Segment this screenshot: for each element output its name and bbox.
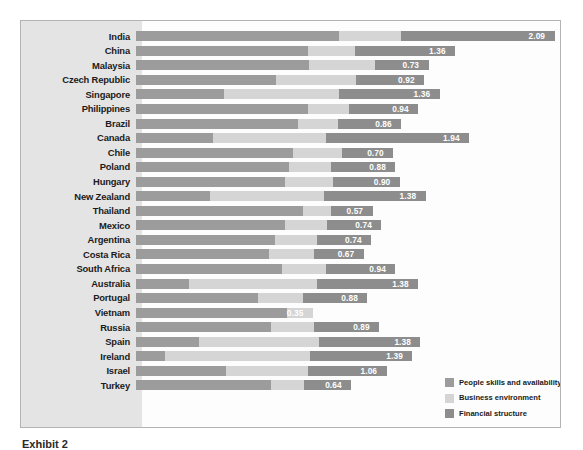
category-label: Russia bbox=[21, 323, 136, 332]
bar-track: 0.92 bbox=[136, 75, 560, 85]
category-label: Malaysia bbox=[21, 61, 136, 70]
bar-value-label: 0.94 bbox=[392, 104, 409, 114]
chart-row: Canada1.94 bbox=[21, 131, 560, 146]
bar-segment-s1 bbox=[136, 351, 165, 361]
bar-track: 1.38 bbox=[136, 279, 560, 289]
chart-row: India2.09 bbox=[21, 29, 560, 44]
bar-value-label: 2.09 bbox=[529, 31, 546, 41]
bar-segment-s2 bbox=[298, 119, 338, 129]
stacked-bar bbox=[136, 162, 395, 172]
stacked-bar bbox=[136, 351, 412, 361]
chart-row: New Zealand1.38 bbox=[21, 189, 560, 204]
legend-item: Financial structure bbox=[445, 409, 561, 418]
bar-segment-s2 bbox=[303, 206, 330, 216]
bar-segment-s1 bbox=[136, 308, 287, 318]
bar-value-label: 0.64 bbox=[325, 380, 342, 390]
bar-segment-s2 bbox=[309, 60, 375, 70]
bar-segment-s2 bbox=[165, 351, 309, 361]
stacked-bar bbox=[136, 119, 401, 129]
bar-segment-s2 bbox=[224, 89, 340, 99]
bar-track: 1.38 bbox=[136, 191, 560, 201]
bar-track: 1.36 bbox=[136, 46, 560, 56]
category-label: Vietnam bbox=[21, 308, 136, 317]
bar-track: 0.94 bbox=[136, 264, 560, 274]
bar-segment-s1 bbox=[136, 293, 258, 303]
chart-row: Argentina0.74 bbox=[21, 233, 560, 248]
category-label: Turkey bbox=[21, 381, 136, 390]
category-label: Singapore bbox=[21, 90, 136, 99]
bar-value-label: 0.73 bbox=[403, 60, 420, 70]
category-label: Canada bbox=[21, 133, 136, 142]
bar-segment-s1 bbox=[136, 148, 293, 158]
bar-segment-s2 bbox=[271, 380, 304, 390]
category-label: New Zealand bbox=[21, 192, 136, 201]
bar-segment-s1 bbox=[136, 133, 213, 143]
bar-segment-s2 bbox=[339, 31, 400, 41]
legend-swatch-icon bbox=[445, 409, 454, 418]
figure-caption: Exhibit 2 bbox=[22, 438, 68, 450]
bar-segment-s1 bbox=[136, 119, 298, 129]
bar-segment-s2 bbox=[308, 104, 349, 114]
bar-value-label: 1.36 bbox=[429, 46, 446, 56]
chart-row: Singapore1.36 bbox=[21, 87, 560, 102]
bar-track: 1.36 bbox=[136, 89, 560, 99]
legend-swatch-icon bbox=[445, 378, 454, 387]
category-label: Israel bbox=[21, 366, 136, 375]
bar-value-label: 1.94 bbox=[443, 133, 460, 143]
bar-value-label: 0.70 bbox=[367, 148, 384, 158]
bar-value-label: 1.38 bbox=[394, 337, 411, 347]
stacked-bar bbox=[136, 177, 400, 187]
bar-track: 1.38 bbox=[136, 337, 560, 347]
category-label: Hungary bbox=[21, 177, 136, 186]
chart-row: Vietnam0.35 bbox=[21, 305, 560, 320]
bar-value-label: 0.94 bbox=[369, 264, 386, 274]
bar-track: 1.94 bbox=[136, 133, 560, 143]
chart-row: South Africa0.94 bbox=[21, 262, 560, 277]
stacked-bar bbox=[136, 46, 455, 56]
category-label: Argentina bbox=[21, 235, 136, 244]
bar-segment-s2 bbox=[282, 264, 326, 274]
legend-label: Financial structure bbox=[459, 410, 527, 418]
stacked-bar bbox=[136, 279, 418, 289]
stacked-bar bbox=[136, 249, 364, 259]
bar-value-label: 1.39 bbox=[386, 351, 403, 361]
category-label: South Africa bbox=[21, 264, 136, 273]
chart-row: Spain1.38 bbox=[21, 334, 560, 349]
bar-track: 0.86 bbox=[136, 119, 560, 129]
category-label: China bbox=[21, 46, 136, 55]
category-label: Poland bbox=[21, 162, 136, 171]
bar-segment-s2 bbox=[213, 133, 326, 143]
chart-row: Thailand0.57 bbox=[21, 204, 560, 219]
chart-row: Israel1.06 bbox=[21, 364, 560, 379]
bar-value-label: 1.36 bbox=[414, 89, 431, 99]
bar-track: 0.73 bbox=[136, 60, 560, 70]
bar-segment-s1 bbox=[136, 337, 199, 347]
chart-row: Mexico0.74 bbox=[21, 218, 560, 233]
category-label: Spain bbox=[21, 337, 136, 346]
category-label: India bbox=[21, 32, 136, 41]
legend-item: Business environment bbox=[445, 394, 561, 403]
bar-value-label: 0.57 bbox=[347, 206, 364, 216]
bar-segment-s2 bbox=[276, 75, 356, 85]
chart-legend: People skills and availabilityBusiness e… bbox=[445, 378, 561, 425]
bar-segment-s1 bbox=[136, 46, 308, 56]
bar-value-label: 0.35 bbox=[287, 308, 304, 318]
chart-screenshot: India2.09China1.36Malaysia0.73Czech Repu… bbox=[0, 0, 583, 450]
bar-track: 0.90 bbox=[136, 177, 560, 187]
chart-frame: India2.09China1.36Malaysia0.73Czech Repu… bbox=[20, 20, 561, 428]
stacked-bar bbox=[136, 235, 371, 245]
bar-segment-s2 bbox=[293, 148, 342, 158]
stacked-bar bbox=[136, 148, 393, 158]
category-label: Philippines bbox=[21, 104, 136, 113]
stacked-bar bbox=[136, 337, 420, 347]
chart-row: China1.36 bbox=[21, 44, 560, 59]
bar-value-label: 0.74 bbox=[355, 220, 372, 230]
bar-segment-s2 bbox=[289, 162, 330, 172]
chart-row: Brazil0.86 bbox=[21, 116, 560, 131]
category-label: Czech Republic bbox=[21, 75, 136, 84]
bar-value-label: 0.86 bbox=[375, 119, 392, 129]
bar-track: 1.06 bbox=[136, 366, 560, 376]
bar-segment-s1 bbox=[136, 177, 285, 187]
stacked-bar bbox=[136, 60, 429, 70]
bar-segment-s2 bbox=[258, 293, 302, 303]
